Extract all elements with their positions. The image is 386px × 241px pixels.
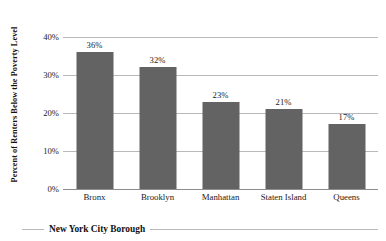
bar-slot-brooklyn: 32% [126,37,189,189]
y-axis-tick-label: 40% [19,33,59,42]
bar-staten-island[interactable] [265,109,302,189]
bar-chart-figure: Percent of Renters Below the Poverty Lev… [0,0,386,241]
bar-series: 36% 32% 23% 21% 17% [63,37,378,189]
x-axis-tick-label-queens: Queens [307,192,386,202]
bar-queens[interactable] [328,124,365,189]
y-axis-tick-label: 30% [19,71,59,80]
x-axis-title-row: New York City Borough [22,221,378,237]
bar-slot-manhattan: 23% [189,37,252,189]
x-axis-title: New York City Borough [44,221,150,237]
bar-slot-staten-island: 21% [252,37,315,189]
y-axis-title: Percent of Renters Below the Poverty Lev… [10,5,19,205]
bar-value-label: 23% [213,91,229,100]
bar-value-label: 17% [339,113,355,122]
bar-value-label: 36% [87,41,103,50]
bar-slot-queens: 17% [315,37,378,189]
bar-bronx[interactable] [76,52,113,189]
x-axis-line [63,189,378,190]
y-axis-tick-label: 0% [19,185,59,194]
bar-slot-bronx: 36% [63,37,126,189]
x-axis-tick-labels: Bronx Brooklyn Manhattan Staten Island Q… [63,192,378,208]
bar-brooklyn[interactable] [139,67,176,189]
y-axis-tick-label: 10% [19,147,59,156]
y-axis-tick-label: 20% [19,109,59,118]
bar-value-label: 32% [150,56,166,65]
bar-value-label: 21% [276,98,292,107]
bar-manhattan[interactable] [202,102,239,189]
